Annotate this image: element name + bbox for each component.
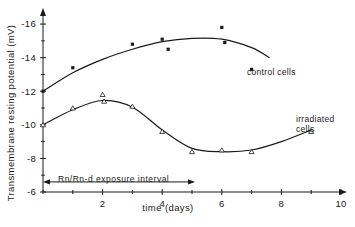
exposure-interval-arrowhead-left [43, 179, 50, 184]
data-point [71, 66, 74, 69]
data-point [223, 41, 226, 44]
exposure-interval-text: Rn/Rn-d exposure interval [58, 174, 169, 184]
x-tick-label: 2 [100, 198, 106, 209]
data-point [220, 26, 223, 29]
y-tick-label: -8 [27, 153, 36, 164]
y-tick-group: -6-8-10-12-14-16 [21, 18, 46, 197]
y-tick-label: -10 [21, 119, 36, 130]
y-tick-label: -12 [21, 86, 36, 97]
data-point [70, 106, 75, 110]
x-axis-arrowhead [339, 189, 347, 195]
x-axis-title: time (days) [142, 202, 193, 213]
exposure-interval-annotation: Rn/Rn-d exposure interval [43, 174, 195, 185]
exposure-interval-arrowhead-right [188, 179, 195, 184]
data-point [219, 148, 224, 152]
irradiated-cells-label-line2: cells [296, 124, 315, 134]
data-point [131, 43, 134, 46]
x-tick-label: 6 [219, 198, 225, 209]
irradiated-cells-curve [43, 100, 311, 151]
data-point [41, 90, 44, 93]
control-cells-label: control cells [247, 67, 296, 77]
axes-group [40, 8, 347, 195]
figure-container: -6-8-10-12-14-16 246810 control cells ir… [0, 0, 355, 227]
chart-canvas: -6-8-10-12-14-16 246810 control cells ir… [0, 0, 355, 227]
y-tick-label: -14 [21, 52, 36, 63]
irradiated-cells-label-line1: irradiated [296, 114, 334, 124]
control-cells-points [41, 26, 253, 93]
x-tick-label: 10 [335, 198, 346, 209]
data-point [100, 92, 105, 96]
y-axis-title: Transmembrane resting potential (mV) [5, 25, 16, 202]
y-tick-label: -6 [27, 186, 36, 197]
data-point [189, 149, 194, 153]
control-cells-curve [43, 38, 269, 91]
data-point [167, 48, 170, 51]
x-tick-label: 8 [279, 198, 285, 209]
data-point [161, 38, 164, 41]
y-tick-label: -16 [21, 18, 36, 29]
y-axis-arrowhead [40, 8, 46, 16]
data-point [102, 99, 107, 103]
